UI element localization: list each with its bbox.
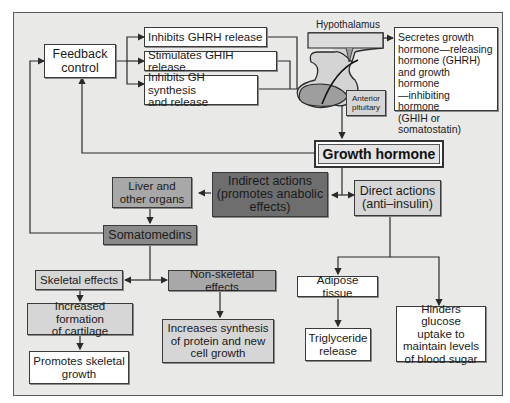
anterior-pituitary-box: Anterior pituitary: [346, 90, 386, 116]
hypothalamus-label: Hypothalamus: [316, 19, 380, 30]
adipose-tissue-box: Adipose tissue: [297, 276, 378, 297]
liver-box: Liver and other organs: [112, 177, 192, 208]
inhibits-ghrh-box: Inhibits GHRH release: [144, 27, 267, 47]
protein-synthesis-box: Increases synthesis of protein and new c…: [162, 319, 274, 363]
stimulates-ghih-box: Stimulates GHIH release: [144, 51, 277, 71]
glucose-box: Hinders glucose uptake to maintain level…: [396, 306, 486, 362]
feedback-control-box: Feedback control: [44, 44, 116, 78]
cartilage-box: Increased formation of cartilage: [27, 303, 133, 335]
inhibits-gh-box: Inhibits GH synthesis and release: [144, 75, 258, 105]
skeletal-growth-box: Promotes skeletal growth: [29, 351, 129, 384]
growth-hormone-box: Growth hormone: [314, 140, 444, 168]
triglyceride-box: Triglyceride release: [305, 328, 371, 361]
indirect-actions-box: Indirect actions (promotes anabolic effe…: [212, 172, 328, 217]
somatomedins-box: Somatomedins: [103, 225, 197, 245]
secretes-box: Secretes growth hormone—releasing hormon…: [394, 27, 498, 111]
direct-actions-box: Direct actions (anti–insulin): [354, 180, 441, 216]
skeletal-effects-box: Skeletal effects: [35, 270, 123, 290]
nonskeletal-effects-box: Non-skeletal effects: [168, 270, 276, 291]
